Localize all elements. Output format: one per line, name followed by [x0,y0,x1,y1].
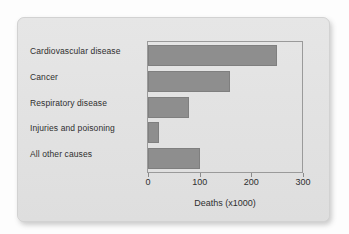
x-axis-title: Deaths (x1000) [147,198,303,208]
bar-row-all-other-causes [148,148,200,169]
bar-row-respiratory-disease [148,97,189,118]
category-label-respiratory-disease: Respiratory disease [30,98,142,108]
bar-cardiovascular-disease [148,45,277,66]
x-tick-label-200: 200 [234,177,268,187]
bar-all-other-causes [148,148,200,169]
bar-row-cancer [148,71,230,92]
figure-card: Cardiovascular disease Cancer Respirator… [17,17,330,222]
category-label-all-other-causes: All other causes [30,149,142,159]
x-tick-label-100: 100 [183,177,217,187]
x-tick-label-0: 0 [131,177,165,187]
bar-series [148,42,303,172]
category-label-cardiovascular-disease: Cardiovascular disease [30,46,142,56]
category-label-injuries-and-poisoning: Injuries and poisoning [30,123,142,133]
category-label-cancer: Cancer [30,72,142,82]
bar-injuries-and-poisoning [148,122,159,143]
bar-cancer [148,71,230,92]
x-tick-label-300: 300 [286,177,320,187]
bar-respiratory-disease [148,97,189,118]
bar-row-cardiovascular-disease [148,45,277,66]
bar-row-injuries-and-poisoning [148,122,159,143]
chart-screenshot: Cardiovascular disease Cancer Respirator… [0,0,349,234]
